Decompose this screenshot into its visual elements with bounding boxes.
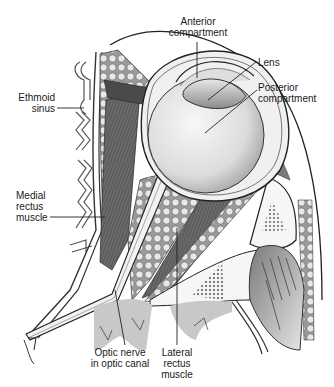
orbit-illustration [0,0,334,387]
label-medial-rectus-muscle: Medial rectus muscle [16,190,48,223]
label-anterior-compartment: Anterior compartment [162,16,234,38]
eyeball [141,51,288,201]
orbit-diagram: Anterior compartment Lens Posterior comp… [0,0,334,387]
label-ethmoid-sinus: Ethmoid sinus [10,92,55,114]
label-lens: Lens [258,57,280,68]
temporal-muscle [249,245,304,350]
label-optic-nerve: Optic nerve in optic canal [84,347,156,369]
label-lateral-rectus-muscle: Lateral rectus muscle [152,347,202,380]
label-posterior-compartment: Posterior compartment [258,82,316,104]
ethmoid-sinus-walls [70,62,92,252]
